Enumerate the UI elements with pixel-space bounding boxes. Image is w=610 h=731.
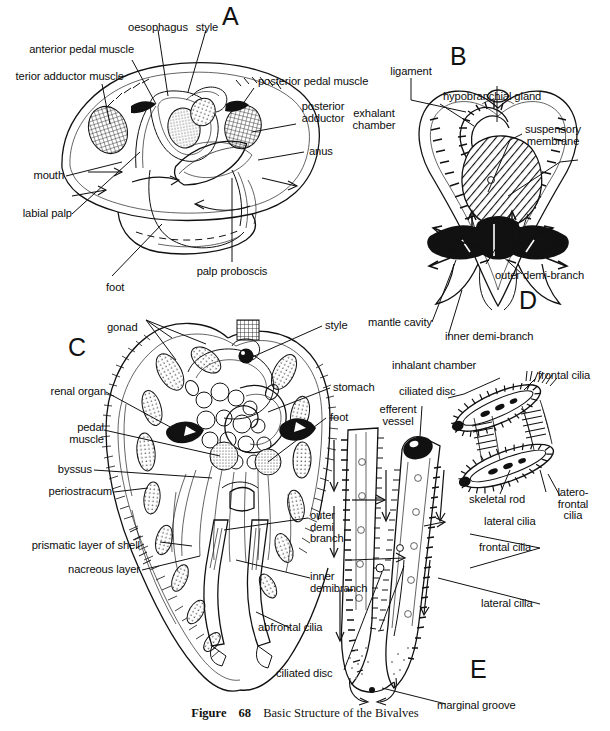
panel-letter-b: B (450, 42, 467, 71)
label-inner-demi-branch-b: inner demi-branch (445, 331, 533, 343)
label-skeletal-rod: skeletal rod (469, 494, 525, 506)
label-anus: anus (309, 146, 333, 158)
caption-number: 68 (239, 706, 252, 720)
label-anterior-pedal-muscle: anterior pedal muscle (10, 44, 134, 56)
label-latero-frontal-cilia: latero- frontal cilia (545, 487, 601, 522)
panel-letter-c: C (68, 333, 86, 362)
label-outer-demi-branch-c: outer demi branch (310, 510, 344, 545)
label-efferent-vessel: efferent vessel (371, 404, 425, 427)
label-style-c: style (325, 320, 348, 332)
label-ciliated-disc-e: ciliated disc (276, 668, 333, 680)
label-mouth: mouth (8, 170, 64, 182)
label-suspensory-membrane: suspensory membrane (513, 124, 593, 147)
label-frontal-cilia-d: frontal cilia (538, 370, 590, 382)
label-ciliated-disc-d: ciliated disc (399, 386, 456, 398)
label-frontal-cilia-e: frontal cilia (479, 542, 531, 554)
label-abfrontal-cilia: abfrontal cilia (258, 622, 322, 634)
panel-d-artwork (444, 371, 560, 503)
label-lateral-cilia-d: lateral cilia (484, 516, 536, 528)
label-prismatic-layer-of-shell: prismatic layer of shell (0, 540, 140, 552)
label-ligament: ligament (381, 66, 441, 78)
label-labial-palp: labial palp (0, 208, 72, 220)
label-style-a: style (182, 22, 232, 34)
label-exhalant-chamber: exhalant chamber (337, 108, 411, 131)
caption-title: Basic Structure of the Bivalves (263, 706, 419, 720)
label-mantle-cavity: mantle cavity (368, 317, 432, 329)
figure-bivalve-structure: A B C D E oesophagus style anterior peda… (0, 0, 610, 731)
panel-c-artwork (101, 320, 338, 691)
caption-label: Figure (191, 706, 226, 720)
label-foot-c: foot (330, 412, 348, 424)
label-lateral-cilia-e: lateral cilia (481, 598, 533, 610)
label-foot-a: foot (106, 282, 124, 294)
label-byssus: byssus (26, 464, 92, 476)
label-anterior-adductor-muscle: terior adductor muscle (0, 71, 124, 83)
label-stomach: stomach (333, 382, 375, 394)
panel-a-leaders (66, 30, 304, 276)
label-gonad: gonad (107, 322, 138, 334)
panel-letter-e: E (470, 655, 487, 684)
label-nacreous-layer: nacreous layer (24, 564, 140, 576)
label-renal-organ: renal organ (10, 386, 106, 398)
figure-caption: Figure 68 Basic Structure of the Bivalve… (0, 706, 610, 721)
label-palp-proboscis: palp proboscis (186, 266, 278, 278)
label-inhalant-chamber: inhalant chamber (392, 360, 476, 372)
label-pedal-muscle: pedal muscle (26, 422, 104, 445)
label-posterior-pedal-muscle: posterior pedal muscle (258, 76, 368, 88)
label-outer-demi-branch-b: outer demi-branch (495, 270, 584, 282)
panel-letter-d: D (519, 286, 537, 315)
label-periostracum: periostracum (16, 486, 112, 498)
label-hypobranchial-gland: hypobranchial gland (443, 91, 541, 103)
panel-a-artwork (62, 63, 319, 254)
label-inner-demibranch-c: inner demibranch (310, 571, 367, 594)
panel-e-artwork (330, 428, 445, 705)
